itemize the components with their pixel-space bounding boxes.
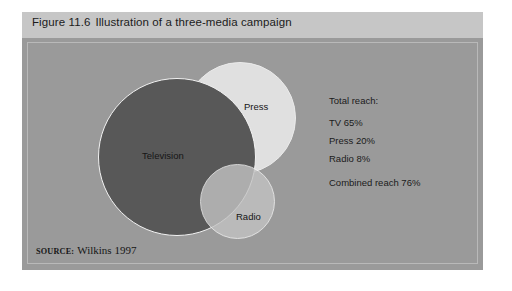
source-note: SOURCE:Wilkins 1997 [36,244,136,256]
venn-label-television: Television [142,150,184,161]
stat-row-press: Press 20% [329,136,469,146]
figure-title-text: Illustration of a three-media campaign [95,16,291,28]
total-reach-panel: Total reach: TV 65% Press 20% Radio 8% C… [329,96,469,188]
total-reach-heading: Total reach: [329,96,469,106]
figure-title: Figure 11.6Illustration of a three-media… [32,16,292,28]
stat-row-radio: Radio 8% [329,154,469,164]
combined-reach-row: Combined reach 76% [329,178,469,188]
venn-circle-radio [200,164,275,239]
venn-label-radio: Radio [236,211,261,222]
figure-canvas: Figure 11.6Illustration of a three-media… [0,0,512,291]
figure-number: Figure 11.6 [32,16,90,28]
figure-body: Television Press Radio Total reach: TV 6… [22,38,483,270]
source-reference: Wilkins 1997 [77,244,136,256]
venn-label-press: Press [244,101,268,112]
source-label: SOURCE: [36,247,74,256]
stat-row-tv: TV 65% [329,118,469,128]
figure-container: Figure 11.6Illustration of a three-media… [22,12,483,270]
figure-header-bar: Figure 11.6Illustration of a three-media… [22,12,483,38]
